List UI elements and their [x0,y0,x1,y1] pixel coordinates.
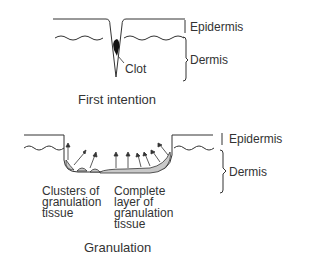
bottom-epidermis-label: Epidermis [229,134,282,145]
granulation-title: Granulation [84,240,151,255]
arrow-icon [143,152,147,156]
granulation-cluster-2 [77,168,87,171]
top-epidermis-surface-left [53,19,116,77]
bottom-dermis-wavy-left [24,146,64,150]
first-intention-title: First intention [78,92,156,107]
arrow-icon [136,153,140,157]
arrow-icon [114,152,118,156]
complete-layer-label: Complete layer of granulation tissue [114,186,173,230]
top-dermis-label: Dermis [190,55,228,66]
clot-label: Clot [125,64,146,75]
bottom-dermis-label: Dermis [229,167,267,178]
clot-pointer [118,56,124,63]
top-dermis-wavy-line [55,36,184,40]
arrow-icon [126,152,130,156]
bottom-dermis-bracket [220,150,226,193]
complete-granulation-layer [100,152,170,173]
arrow-icon [66,143,70,147]
top-epidermis-label: Epidermis [190,22,243,33]
top-dermis-bracket [183,37,188,81]
clusters-label: Clusters of granulation tissue [42,186,101,219]
arrow-icon [93,152,97,157]
bottom-dermis-wavy-right [174,146,214,150]
granulation-cluster-3 [90,169,100,172]
